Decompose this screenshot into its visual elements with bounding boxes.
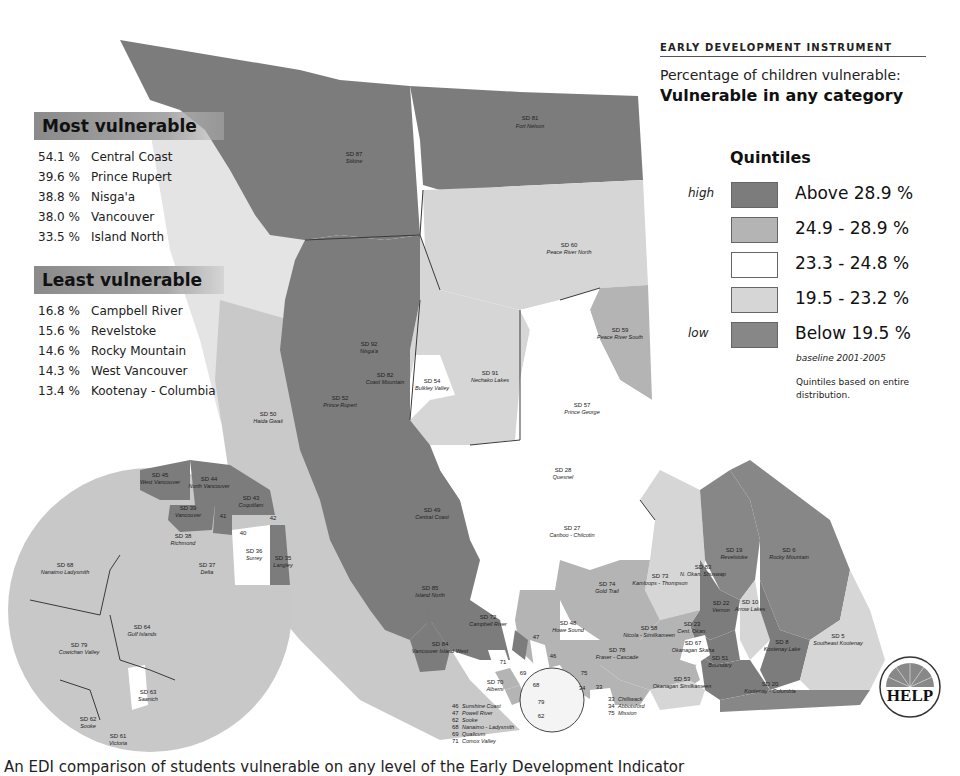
svg-text:SD 79: SD 79: [71, 642, 88, 648]
quintile-note: Quintiles based on entire distribution.: [796, 376, 946, 402]
svg-text:Saanich: Saanich: [138, 696, 158, 702]
svg-text:68: 68: [452, 724, 459, 730]
legend-swatch: [731, 322, 778, 348]
svg-text:SD 49: SD 49: [424, 507, 441, 513]
svg-text:SD 73: SD 73: [652, 573, 669, 579]
svg-text:Sooke: Sooke: [80, 723, 96, 729]
svg-text:Rocky Mountain: Rocky Mountain: [769, 554, 808, 560]
svg-text:SD 48: SD 48: [560, 620, 577, 626]
list-item: 14.3 %West Vancouver: [38, 361, 224, 381]
vancouver-zoom-circle: [520, 668, 584, 732]
svg-text:SD 52: SD 52: [332, 395, 349, 401]
svg-text:Nechako Lakes: Nechako Lakes: [471, 377, 509, 383]
svg-text:Coast Mountain: Coast Mountain: [366, 379, 405, 385]
map-title: Vulnerable in any category: [660, 86, 950, 105]
svg-text:SD 59: SD 59: [612, 327, 629, 333]
svg-text:SD 63: SD 63: [140, 689, 157, 695]
svg-text:69: 69: [520, 670, 527, 676]
svg-text:41: 41: [220, 513, 227, 519]
svg-text:Comox Valley: Comox Valley: [462, 738, 497, 744]
most-vulnerable-heading: Most vulnerable: [34, 112, 224, 140]
svg-text:SD 51: SD 51: [712, 655, 729, 661]
svg-text:Cariboo - Chilcotin: Cariboo - Chilcotin: [549, 532, 594, 538]
svg-text:SD 60: SD 60: [561, 242, 578, 248]
svg-text:Cent. Okan.: Cent. Okan.: [677, 628, 706, 634]
svg-text:33: 33: [608, 696, 615, 702]
legend-swatch: [731, 182, 778, 208]
legend-panel: Early Development Instrument Percentage …: [660, 42, 950, 442]
svg-text:SD 58: SD 58: [641, 625, 658, 631]
svg-text:Okanagan Skaha: Okanagan Skaha: [672, 647, 715, 653]
legend-title: Quintiles: [730, 148, 811, 167]
svg-text:N. Okan. Shuswap: N. Okan. Shuswap: [680, 571, 726, 577]
program-title: Early Development Instrument: [660, 42, 926, 57]
list-item: 38.8 %Nisga'a: [38, 187, 224, 207]
svg-text:Prince Rupert: Prince Rupert: [323, 402, 357, 408]
svg-text:Prince George: Prince George: [564, 409, 599, 415]
svg-text:46: 46: [550, 653, 557, 659]
svg-text:SD 67: SD 67: [685, 640, 702, 646]
svg-text:SD 64: SD 64: [134, 624, 151, 630]
svg-text:SD 68: SD 68: [57, 562, 74, 568]
svg-text:47: 47: [533, 634, 540, 640]
svg-text:SD 70: SD 70: [487, 679, 504, 685]
svg-text:SD 53: SD 53: [674, 676, 691, 682]
inset-sd41-burnaby: [213, 505, 232, 535]
svg-text:SD 10: SD 10: [742, 599, 759, 605]
svg-text:North Vancouver: North Vancouver: [188, 483, 230, 489]
svg-text:SD 8: SD 8: [775, 639, 789, 645]
svg-text:Kootenay Lake: Kootenay Lake: [764, 646, 801, 652]
svg-text:46: 46: [452, 703, 459, 709]
svg-text:SD 23: SD 23: [684, 621, 701, 627]
svg-text:SD 54: SD 54: [424, 378, 441, 384]
svg-text:SD 36: SD 36: [246, 548, 263, 554]
svg-text:Quesnel: Quesnel: [553, 474, 574, 480]
svg-text:Fraser - Cascade: Fraser - Cascade: [596, 654, 639, 660]
svg-text:SD 19: SD 19: [726, 547, 743, 553]
svg-text:SD 20: SD 20: [762, 681, 779, 687]
svg-text:Sooke: Sooke: [462, 717, 478, 723]
svg-text:SD 6: SD 6: [782, 547, 796, 553]
svg-text:Arrow Lakes: Arrow Lakes: [734, 606, 766, 612]
svg-text:Central Coast: Central Coast: [415, 514, 449, 520]
svg-text:69: 69: [452, 731, 459, 737]
svg-text:Haida Gwaii: Haida Gwaii: [253, 418, 283, 424]
svg-text:75: 75: [581, 670, 588, 676]
svg-text:Boundary: Boundary: [708, 662, 733, 668]
svg-text:SD 50: SD 50: [260, 411, 277, 417]
list-item: 54.1 %Central Coast: [38, 147, 224, 167]
svg-text:Revelstoke: Revelstoke: [720, 554, 747, 560]
svg-text:SD 82: SD 82: [377, 372, 394, 378]
svg-text:Bulkley Valley: Bulkley Valley: [415, 385, 450, 391]
baseline-note: baseline 2001-2005: [796, 353, 886, 363]
svg-text:SD 39: SD 39: [180, 505, 197, 511]
list-item: 15.6 %Revelstoke: [38, 321, 224, 341]
svg-text:Alberni: Alberni: [485, 686, 504, 692]
svg-text:Cowichan Valley: Cowichan Valley: [59, 649, 101, 655]
least-vulnerable-heading: Least vulnerable: [34, 266, 224, 294]
svg-text:SD 62: SD 62: [80, 716, 97, 722]
svg-text:75: 75: [608, 710, 615, 716]
least-vulnerable-panel: Least vulnerable 16.8 %Campbell River 15…: [34, 266, 224, 401]
svg-text:71: 71: [452, 738, 459, 744]
svg-text:Southeast Kootenay: Southeast Kootenay: [813, 640, 864, 646]
svg-text:SD 61: SD 61: [110, 733, 127, 739]
figure-caption: An EDI comparison of students vulnerable…: [0, 758, 960, 776]
svg-text:SD 83: SD 83: [695, 564, 712, 570]
svg-text:HELP: HELP: [887, 686, 933, 705]
svg-text:Peace River South: Peace River South: [597, 334, 643, 340]
svg-text:Sunshine Coast: Sunshine Coast: [462, 703, 501, 709]
svg-text:34: 34: [579, 685, 586, 691]
svg-text:Okanagan Similkameen: Okanagan Similkameen: [653, 683, 711, 689]
svg-text:68: 68: [533, 682, 540, 688]
svg-text:Powell River: Powell River: [462, 710, 494, 716]
svg-text:SD 78: SD 78: [609, 647, 626, 653]
legend-low-label: low: [688, 326, 709, 340]
svg-text:Island North: Island North: [415, 592, 445, 598]
svg-text:Nanaimo - Ladysmith: Nanaimo - Ladysmith: [462, 724, 514, 730]
svg-text:Richmond: Richmond: [171, 540, 197, 546]
svg-text:40: 40: [240, 530, 247, 536]
svg-text:Nanaimo Ladysmith: Nanaimo Ladysmith: [41, 569, 90, 575]
most-vulnerable-panel: Most vulnerable 54.1 %Central Coast 39.6…: [34, 112, 224, 247]
svg-text:Coquitlam: Coquitlam: [239, 502, 264, 508]
